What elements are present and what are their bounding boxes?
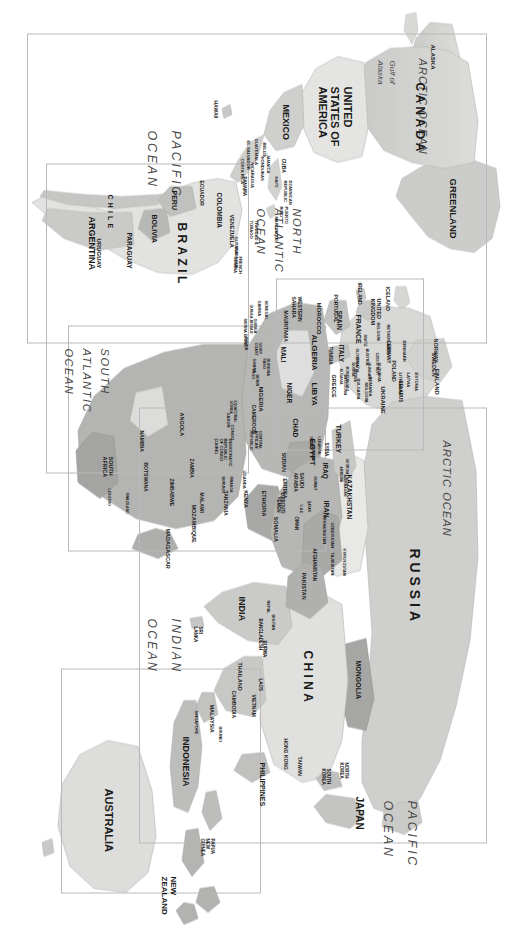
country-label-tunisia: TUNISIA [328, 346, 333, 364]
country-label-ecuador: ECUADOR [199, 180, 204, 205]
country-label-hawaii: HAWAII [213, 100, 218, 118]
country-label-iraq: IRAQ [322, 462, 329, 478]
country-label-pakistan: PAKISTAN [301, 572, 307, 599]
country-label-belize: BELIZE [262, 142, 266, 157]
country-label-switzerland: SWITZ. [362, 334, 366, 347]
country-label-algeria: ALGERIA [310, 334, 318, 370]
country-label-south-africa: SOUTHAFRICA [102, 456, 114, 477]
country-label-ukraine: UKRAINE [380, 386, 386, 413]
country-label-vietnam: VIETNAM [251, 694, 256, 717]
ocean-label-pacific-east: PACIFIC [406, 800, 419, 868]
country-label-nepal: NEPAL [266, 600, 270, 613]
country-label-thailand: THAILAND [237, 662, 243, 690]
country-label-united-states: UNITEDSTATES OFAMERICA [316, 86, 354, 146]
india-shape [204, 582, 292, 644]
country-label-belarus: BELARUS [398, 380, 403, 402]
country-label-japan: JAPAN [354, 796, 364, 829]
country-label-germany: GERMANY [386, 340, 391, 363]
country-label-puerto-rico: PUERTORICO [279, 206, 288, 223]
country-label-iceland: ICELAND [385, 286, 391, 310]
ocean-label-north-atlantic: NORTH [291, 208, 302, 255]
ocean-label-pacific-west: PACIFIC [170, 130, 183, 198]
country-label-botswana: BOTSWANA [143, 462, 148, 491]
country-label-chile: CHILE [107, 194, 114, 231]
tasmania-shape [42, 838, 54, 856]
country-label-burma: BURMA [262, 640, 267, 657]
country-label-paraguay: PARAGUAY [126, 232, 133, 268]
country-label-western-sahara: WESTERNSAHARA [291, 296, 302, 321]
new-zealand-shape [176, 886, 220, 924]
country-label-namibia: NAMIBIA [139, 430, 144, 451]
ocean-label-south-atlantic-line2: ATLANTIC [81, 348, 92, 413]
country-label-ethiopia: ETHIOPIA [261, 490, 267, 516]
country-label-cuba: CUBA [281, 158, 286, 172]
country-label-brunei: BRUNEI [218, 726, 222, 741]
country-label-turkmenistan: TURKMENISTAN [322, 512, 326, 544]
ocean-label-indian: INDIAN [170, 618, 182, 673]
country-label-kazakhstan: KAZAKHSTAN [346, 474, 353, 519]
hawaii-shape [222, 104, 232, 118]
country-label-sudan: SUDAN [281, 452, 287, 472]
country-label-bolivia: BOLIVIA [151, 214, 158, 242]
country-label-bhutan: BHUTAN [270, 614, 274, 630]
country-label-uzbekistan: UZBEKISTAN [330, 522, 334, 547]
country-label-dominican-republic: DOMINICANREPUBLIC [283, 180, 292, 204]
country-label-madagascar: MADAGASCAR [165, 528, 171, 568]
water-label-gulf-of-alaska-line2: Alaska [376, 60, 384, 84]
country-label-saudi-arabia: SAUDIARABIA [293, 472, 304, 491]
country-label-yemen: YEMEN [276, 496, 281, 512]
country-label-tajikistan: TAJIKISTAN [330, 552, 334, 575]
country-label-lesotho: LESOTHO [106, 488, 110, 505]
country-label-somalia: SOMALIA [273, 516, 279, 541]
country-label-brazil: BRAZIL [176, 222, 188, 286]
country-label-china: CHINA [302, 650, 314, 705]
country-label-tanzania: TANZANIA [223, 490, 228, 515]
iceland-shape [394, 286, 410, 310]
country-label-kyrgyzstan: KYRGYZSTAN [342, 548, 346, 575]
country-label-niger: NIGER [286, 382, 293, 403]
country-label-latvia: LATVIA [406, 372, 410, 387]
country-label-zambia: ZAMBIA [189, 458, 194, 477]
country-label-finland: FINLAND [434, 368, 440, 394]
country-label-guatemala: GUATEMALA [254, 138, 258, 164]
country-label-guinea: GUINEA [252, 318, 256, 333]
country-label-alaska: ALASKA [430, 44, 436, 69]
country-label-ireland: IRELAND [357, 282, 362, 304]
country-label-oman: OMAN [294, 516, 299, 530]
country-label-mauritania: MAURITANIA [283, 310, 288, 341]
country-label-albania: ALBANIA [338, 368, 342, 384]
country-label-mexico: MEXICO [281, 104, 290, 140]
country-label-senegal: SENEGAL [264, 300, 268, 319]
country-label-singapore: SINGAPORE [194, 710, 198, 734]
country-label-cambodia: CAMBODIA [231, 690, 236, 718]
country-label-canada: CANADA [414, 82, 426, 154]
country-label-india: INDIA [237, 596, 246, 621]
country-label-italy: ITALY [338, 344, 345, 362]
country-label-australia: AUSTRALIA [103, 788, 114, 852]
ocean-label-south-atlantic-line3: OCEAN [63, 348, 74, 395]
country-label-cameroon: CAMEROON [251, 404, 256, 434]
country-label-uganda: UGANDA [242, 470, 246, 488]
country-label-mozambique: MOZAMBIQUE [191, 504, 197, 542]
country-label-nicaragua: NICARAGUA [250, 162, 254, 188]
country-label-nigeria: NIGERIA [258, 386, 264, 411]
ocean-label-south-atlantic: SOUTH [99, 348, 110, 394]
rotated-map-container: ARCTIC OCEAN ARCTIC OCEAN PACIFIC OCEAN … [0, 0, 514, 925]
country-label-philippines: PHILIPPINES [259, 762, 266, 806]
ocean-label-pacific-west-line2: OCEAN [146, 130, 159, 188]
country-label-greenland: GREENLAND [449, 178, 459, 238]
country-label-martinique: MARTINIQUE [274, 216, 278, 241]
country-label-portugal: PORTUGAL [333, 294, 338, 322]
country-label-sri-lanka: SRILANKA [192, 626, 202, 642]
country-label-central-african-republic: CENTRALAFRICANREPUBLIC [249, 430, 262, 450]
ocean-label-indian-line2: OCEAN [146, 618, 158, 673]
country-label-estonia: ESTONIA [414, 372, 418, 391]
country-label-afghanistan: AFGHANISTAN [312, 548, 317, 580]
country-label-libya: LIBYA [310, 382, 318, 405]
world-map-canvas: ARCTIC OCEAN ARCTIC OCEAN PACIFIC OCEAN … [0, 0, 514, 925]
country-label-mali: MALI [280, 346, 287, 362]
country-label-serbia: SERBIA [352, 368, 356, 382]
ocean-label-arctic-eurasia: ARCTIC OCEAN [441, 440, 452, 536]
country-label-new-zealand: NEWZEALAND [160, 876, 178, 914]
country-label-angola: ANGOLA [179, 412, 185, 436]
